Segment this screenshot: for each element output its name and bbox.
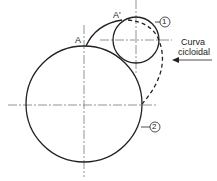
- label-curva: Curva: [181, 37, 205, 47]
- label-cicloidal: cicloidal: [178, 47, 210, 57]
- cycloid-diagram: [0, 0, 217, 181]
- arrow-head-icon: [172, 57, 179, 63]
- label-point-a: A: [75, 35, 81, 45]
- callout-1-number: 1: [162, 17, 166, 27]
- label-point-a-prime: A': [113, 10, 121, 20]
- cycloid-arc-solid: [86, 20, 122, 46]
- callout-2-number: 2: [152, 122, 156, 132]
